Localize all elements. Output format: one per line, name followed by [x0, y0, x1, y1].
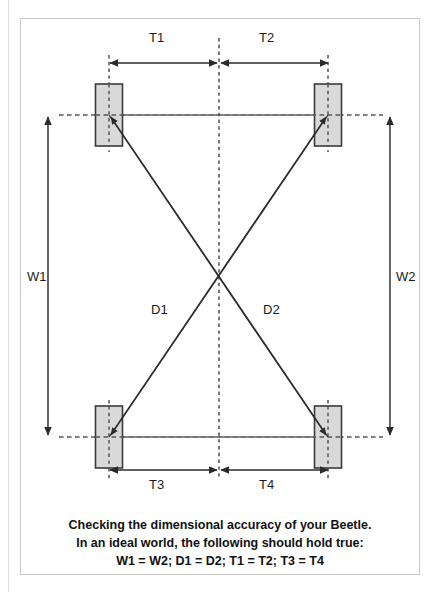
caption-line-2: In an ideal world, the following should … — [24, 534, 416, 552]
figure-root: T1 T2 T3 T4 W1 W2 D1 D2 Checking the dim… — [0, 0, 440, 592]
label-w1: W1 — [27, 269, 47, 284]
diagonal-d2-return-line — [109, 115, 326, 435]
caption-line-1: Checking the dimensional accuracy of you… — [24, 516, 416, 534]
chassis-measurement-diagram — [0, 0, 440, 592]
label-t2: T2 — [259, 30, 274, 45]
label-t3: T3 — [149, 477, 164, 492]
label-w2: W2 — [396, 269, 416, 284]
label-t1: T1 — [149, 30, 164, 45]
label-t4: T4 — [259, 477, 274, 492]
figure-caption: Checking the dimensional accuracy of you… — [24, 516, 416, 570]
label-d1: D1 — [151, 302, 168, 317]
label-d2: D2 — [263, 302, 280, 317]
caption-line-3: W1 = W2; D1 = D2; T1 = T2; T3 = T4 — [24, 552, 416, 570]
